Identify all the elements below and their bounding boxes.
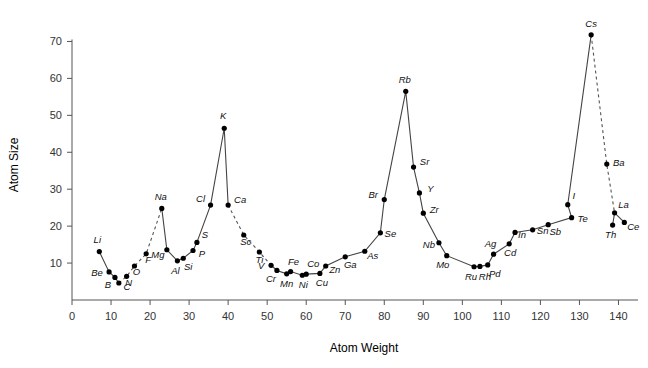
axes-group: 1020304050607001020304050607080901001101… xyxy=(50,35,638,322)
data-point xyxy=(194,240,199,245)
series-line-dashed xyxy=(119,208,162,283)
data-point-label: S xyxy=(202,229,209,240)
data-point-label: Co xyxy=(307,258,319,269)
x-tick-label: 20 xyxy=(144,310,156,322)
data-point xyxy=(116,280,121,285)
data-point-label: Th xyxy=(605,229,616,240)
data-point xyxy=(610,222,615,227)
data-point-label: Fe xyxy=(288,256,299,267)
x-tick-label: 0 xyxy=(69,310,75,322)
data-point-label: Cr xyxy=(266,273,277,284)
data-point-label: Na xyxy=(155,191,167,202)
data-point xyxy=(175,258,180,263)
y-tick-label: 10 xyxy=(50,257,62,269)
data-point-label: Br xyxy=(369,189,379,200)
data-point xyxy=(491,252,496,257)
data-point-label: Cu xyxy=(316,277,329,288)
data-point xyxy=(288,269,293,274)
data-point xyxy=(421,211,426,216)
x-tick-label: 120 xyxy=(531,310,549,322)
data-point xyxy=(159,206,164,211)
data-point xyxy=(417,190,422,195)
data-point xyxy=(164,247,169,252)
data-point-label: Sr xyxy=(420,156,430,167)
data-point-label: Pd xyxy=(489,268,501,279)
data-point xyxy=(530,227,535,232)
data-point-label: In xyxy=(518,229,526,240)
data-point-label: Sn xyxy=(537,225,549,236)
x-tick-label: 130 xyxy=(570,310,588,322)
data-point xyxy=(181,256,186,261)
x-tick-label: 70 xyxy=(339,310,351,322)
data-point xyxy=(444,253,449,258)
data-point-label: Zn xyxy=(328,264,340,275)
data-point-label: Ce xyxy=(627,221,639,232)
data-point-label: Si xyxy=(184,261,193,272)
x-tick-label: 140 xyxy=(609,310,627,322)
data-points-group xyxy=(97,32,627,285)
data-point-label: Al xyxy=(170,265,180,276)
data-point xyxy=(208,202,213,207)
y-tick-label: 40 xyxy=(50,146,62,158)
data-point-label: Mo xyxy=(436,259,449,270)
data-point xyxy=(378,230,383,235)
data-point-label: Nb xyxy=(423,239,435,250)
data-point xyxy=(485,262,490,267)
data-point-label: As xyxy=(366,250,378,261)
y-tick-label: 70 xyxy=(50,35,62,47)
y-tick-label: 60 xyxy=(50,72,62,84)
data-point xyxy=(274,268,279,273)
data-point-label: Cs xyxy=(585,18,597,29)
plot-canvas: 1020304050607001020304050607080901001101… xyxy=(0,0,648,368)
data-point-label: Mg xyxy=(151,249,165,260)
data-point-label: Rb xyxy=(399,74,411,85)
data-point-label: Ag xyxy=(484,238,497,249)
data-point-label: V xyxy=(258,260,266,271)
data-point xyxy=(565,202,570,207)
x-tick-label: 110 xyxy=(493,310,511,322)
data-point xyxy=(106,269,111,274)
x-tick-label: 10 xyxy=(105,310,117,322)
data-point-label: Y xyxy=(427,183,434,194)
data-point xyxy=(317,271,322,276)
data-point-label: Ni xyxy=(299,279,309,290)
y-tick-label: 30 xyxy=(50,183,62,195)
data-point-label: Ca xyxy=(234,194,246,205)
data-point-label: Sc xyxy=(240,236,251,247)
data-point-label: Ru xyxy=(465,271,478,282)
data-point xyxy=(604,161,609,166)
data-point xyxy=(512,230,517,235)
data-point xyxy=(569,215,574,220)
data-point-label: Ga xyxy=(344,259,357,270)
data-point-label: Cl xyxy=(196,193,206,204)
data-point-label: Ba xyxy=(613,157,625,168)
data-point-label: La xyxy=(618,199,629,210)
axis-titles-group: Atom Weight Atom Size xyxy=(7,137,399,355)
data-point xyxy=(222,126,227,131)
data-point-label: Se xyxy=(385,228,397,239)
data-point xyxy=(471,264,476,269)
data-point xyxy=(190,248,195,253)
data-point xyxy=(382,197,387,202)
data-point xyxy=(589,32,594,37)
x-tick-label: 90 xyxy=(417,310,429,322)
data-point xyxy=(477,264,482,269)
data-point-label: P xyxy=(199,248,206,259)
data-point-label: Sb xyxy=(549,226,561,237)
y-axis-title: Atom Size xyxy=(7,137,21,192)
data-point xyxy=(403,89,408,94)
x-tick-label: 100 xyxy=(453,310,471,322)
data-point xyxy=(323,263,328,268)
data-point-label: Cd xyxy=(504,247,517,258)
data-point-label: Zr xyxy=(429,204,440,215)
data-point-label: Li xyxy=(94,234,102,245)
data-point xyxy=(612,210,617,215)
x-tick-label: 60 xyxy=(300,310,312,322)
y-tick-label: 50 xyxy=(50,109,62,121)
data-point xyxy=(226,202,231,207)
data-point xyxy=(268,263,273,268)
data-point xyxy=(304,272,309,277)
data-point-label: I xyxy=(572,190,575,201)
data-point xyxy=(112,275,117,280)
data-point-label: Be xyxy=(91,267,103,278)
